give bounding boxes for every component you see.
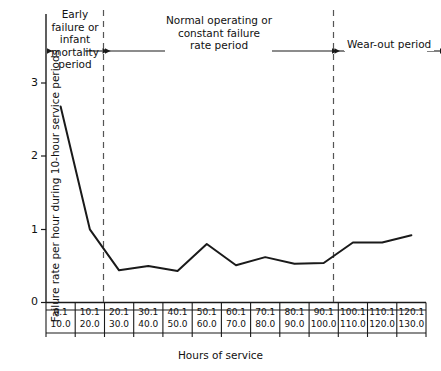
x-axis-label-cell: 0.110.0 bbox=[46, 306, 75, 330]
x-axis-label-cell: 40.150.0 bbox=[163, 306, 192, 330]
x-axis-label-range-start: 30.1 bbox=[134, 306, 163, 318]
x-axis-label-cell: 80.190.0 bbox=[280, 306, 309, 330]
x-axis-title: Hours of service bbox=[0, 349, 441, 362]
x-axis-label-range-end: 120.0 bbox=[368, 318, 397, 330]
x-axis-label-cell: 100.1110.0 bbox=[338, 306, 367, 330]
y-tick-label-1: 1 bbox=[22, 223, 38, 236]
x-axis-label-cell: 110.1120.0 bbox=[368, 306, 397, 330]
annotation-early-line-4: mortality bbox=[46, 46, 104, 59]
x-axis-label-range-start: 60.1 bbox=[221, 306, 250, 318]
x-axis-label-range-end: 10.0 bbox=[46, 318, 75, 330]
x-axis-label-cell: 30.140.0 bbox=[134, 306, 163, 330]
annotation-normal-line-1: Normal operating or bbox=[106, 14, 332, 27]
x-axis-label-range-start: 90.1 bbox=[309, 306, 338, 318]
y-tick-label-3: 3 bbox=[22, 76, 38, 89]
x-axis-label-range-start: 50.1 bbox=[192, 306, 221, 318]
annotation-normal-operating-period: Normal operating or constant failure rat… bbox=[106, 14, 332, 52]
x-axis-label-range-start: 80.1 bbox=[280, 306, 309, 318]
x-axis-label-range-start: 20.1 bbox=[104, 306, 133, 318]
x-axis-label-cell: 70.180.0 bbox=[251, 306, 280, 330]
x-axis-label-range-end: 100.0 bbox=[309, 318, 338, 330]
x-axis-label-range-end: 50.0 bbox=[163, 318, 192, 330]
y-tick-label-2: 2 bbox=[22, 149, 38, 162]
x-axis-label-cell: 20.130.0 bbox=[104, 306, 133, 330]
x-axis-label-cell: 120.1130.0 bbox=[397, 306, 426, 330]
x-axis-label-cell: 90.1100.0 bbox=[309, 306, 338, 330]
annotation-wearout-line-1: Wear-out period bbox=[344, 38, 434, 51]
x-axis-labels: 0.110.010.120.020.130.030.140.040.150.05… bbox=[46, 306, 426, 336]
x-axis-label-range-start: 100.1 bbox=[338, 306, 367, 318]
failure-rate-line bbox=[61, 106, 412, 271]
annotation-normal-line-3: rate period bbox=[106, 39, 332, 52]
annotation-normal-line-2: constant failure bbox=[174, 27, 264, 40]
x-axis-label-range-start: 10.1 bbox=[75, 306, 104, 318]
x-axis-label-range-start: 40.1 bbox=[163, 306, 192, 318]
x-axis-label-range-start: 70.1 bbox=[251, 306, 280, 318]
x-axis-label-range-end: 110.0 bbox=[338, 318, 367, 330]
y-tick-label-0: 0 bbox=[22, 295, 38, 308]
x-axis-label-range-end: 60.0 bbox=[192, 318, 221, 330]
x-axis-label-range-start: 110.1 bbox=[368, 306, 397, 318]
annotation-early-line-5: period bbox=[46, 58, 104, 71]
y-axis-title: Failure rate per hour during 10-hour ser… bbox=[49, 41, 61, 331]
x-axis-label-range-start: 120.1 bbox=[397, 306, 426, 318]
y-axis-ticks bbox=[41, 83, 46, 303]
failure-rate-bathtub-curve-figure: Failure rate per hour during 10-hour ser… bbox=[0, 0, 441, 371]
annotation-wearout-period: Wear-out period bbox=[344, 38, 430, 51]
annotation-early-line-1: Early bbox=[46, 8, 104, 21]
x-axis-label-range-end: 90.0 bbox=[280, 318, 309, 330]
annotation-early-failure-period: Early failure or infant mortality period bbox=[46, 8, 104, 71]
x-axis-label-range-end: 30.0 bbox=[104, 318, 133, 330]
region-dividers bbox=[104, 10, 334, 303]
x-axis-label-range-end: 130.0 bbox=[397, 318, 426, 330]
annotation-early-line-2: failure or bbox=[46, 21, 104, 34]
x-axis-label-cell: 50.160.0 bbox=[192, 306, 221, 330]
x-axis-label-cell: 10.120.0 bbox=[75, 306, 104, 330]
x-axis-label-range-end: 70.0 bbox=[221, 318, 250, 330]
x-axis-label-range-end: 20.0 bbox=[75, 318, 104, 330]
x-axis-label-range-start: 0.1 bbox=[46, 306, 75, 318]
x-axis-label-cell: 60.170.0 bbox=[221, 306, 250, 330]
x-axis-label-range-end: 80.0 bbox=[251, 318, 280, 330]
annotation-early-line-3: infant bbox=[46, 33, 104, 46]
x-axis-label-range-end: 40.0 bbox=[134, 318, 163, 330]
